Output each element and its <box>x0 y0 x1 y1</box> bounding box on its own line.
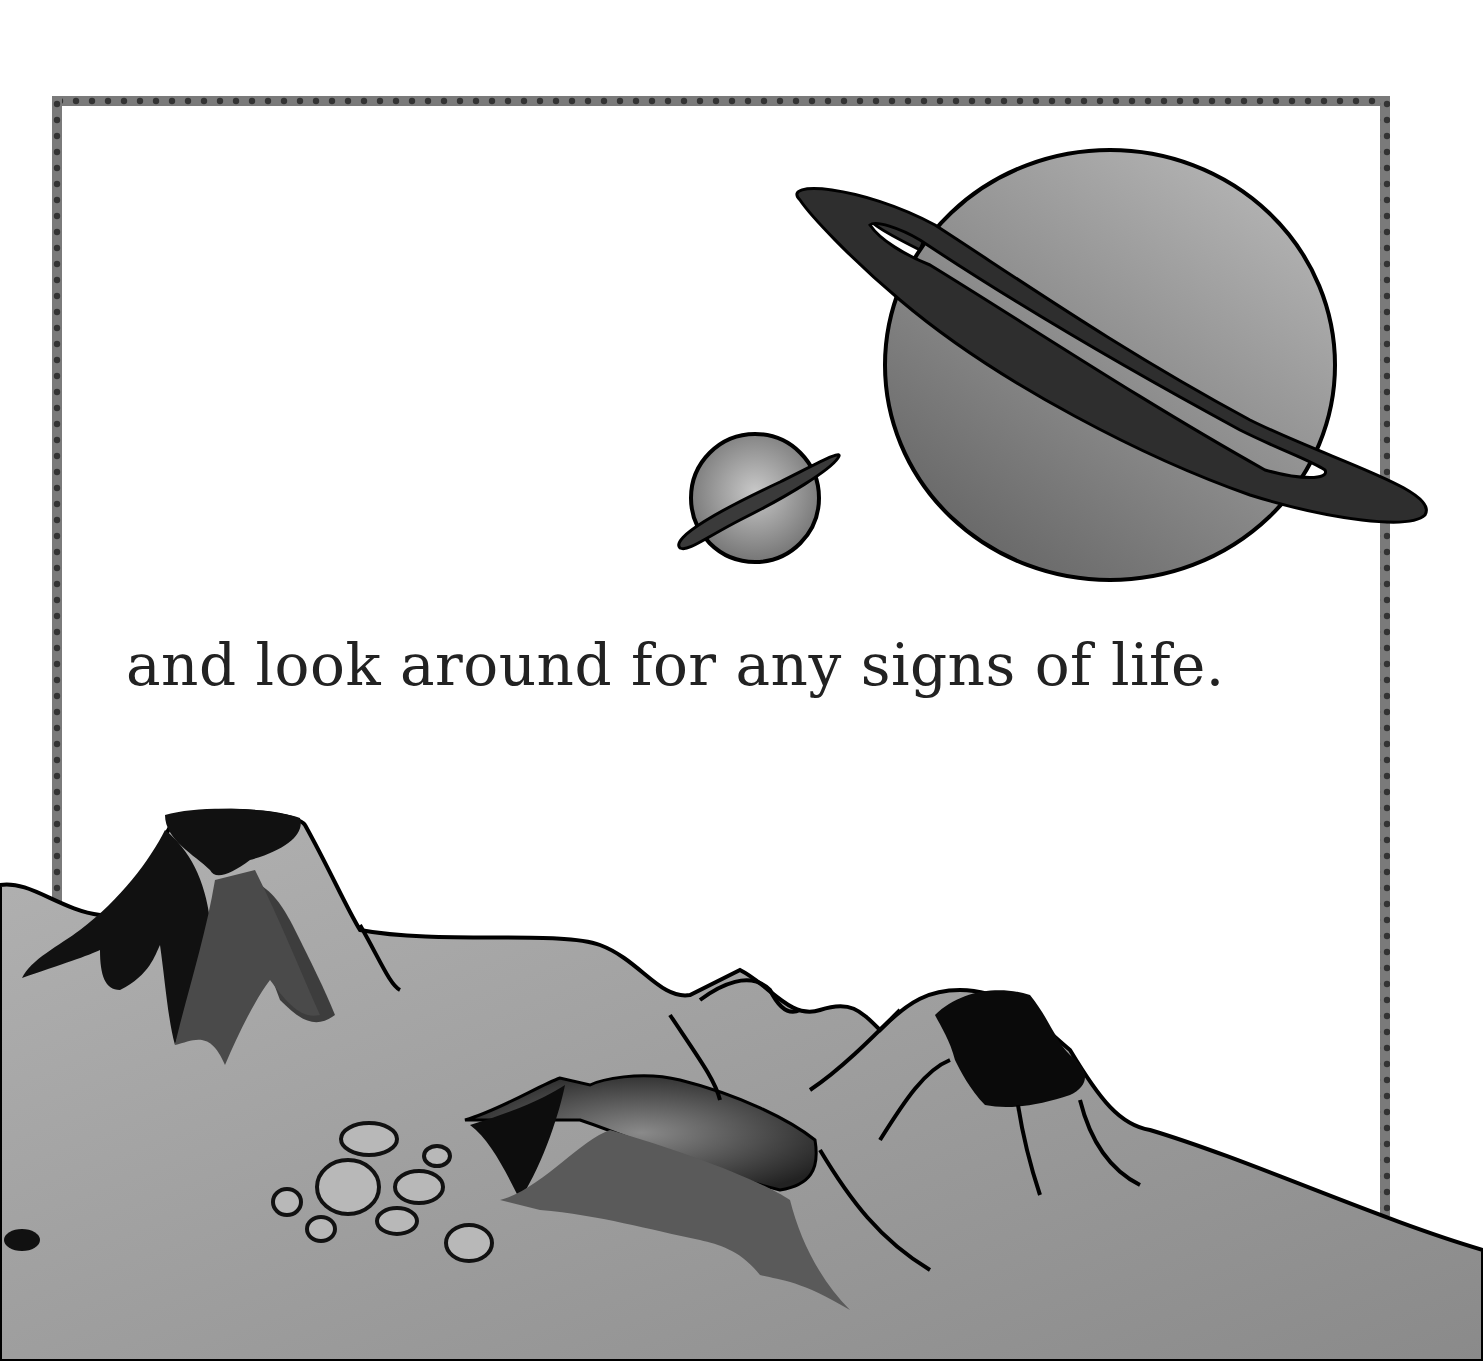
dark-spot-icon <box>4 1229 40 1251</box>
small-ringed-planet-icon <box>679 434 839 562</box>
landscape-illustration <box>0 809 1483 1361</box>
storybook-page: and look around for any signs of life. <box>0 0 1483 1361</box>
story-caption: and look around for any signs of life. <box>126 636 1225 694</box>
large-ringed-planet-icon <box>797 150 1426 580</box>
